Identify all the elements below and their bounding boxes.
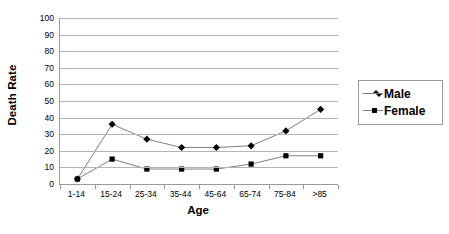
x-axis-title: Age bbox=[59, 204, 337, 216]
x-axis-tick bbox=[60, 185, 61, 189]
gridline bbox=[60, 118, 338, 119]
line-chart: Death Rate 0102030405060708090100 Age Ma… bbox=[0, 0, 449, 234]
data-point-marker bbox=[110, 157, 115, 162]
x-axis-tick bbox=[338, 185, 339, 189]
y-axis-tick-label: 90 bbox=[45, 30, 54, 39]
x-axis-tick bbox=[303, 185, 304, 189]
x-axis-tick-label: 15-24 bbox=[100, 189, 122, 199]
legend-label: Male bbox=[384, 87, 411, 101]
x-axis-tick-label: 75-84 bbox=[274, 189, 296, 199]
data-point-marker bbox=[317, 106, 324, 113]
gridline bbox=[60, 151, 338, 152]
x-axis-tick bbox=[269, 185, 270, 189]
x-axis-tick bbox=[164, 185, 165, 189]
y-axis-tick-label: 20 bbox=[45, 146, 54, 155]
plot-area bbox=[59, 18, 338, 185]
x-axis-tick-label: >85 bbox=[312, 189, 326, 199]
diamond-marker-icon bbox=[362, 87, 384, 101]
gridline bbox=[60, 68, 338, 69]
legend-label: Female bbox=[384, 104, 425, 118]
x-axis-tick bbox=[234, 185, 235, 189]
data-point-marker bbox=[248, 142, 255, 149]
data-point-marker bbox=[283, 153, 288, 158]
gridline bbox=[60, 101, 338, 102]
data-point-marker bbox=[213, 144, 220, 151]
gridline bbox=[60, 35, 338, 36]
data-point-marker bbox=[178, 144, 185, 151]
y-axis-tick-label: 30 bbox=[45, 130, 54, 139]
y-axis-tick-label: 50 bbox=[45, 97, 54, 106]
x-axis-tick bbox=[95, 185, 96, 189]
gridline bbox=[60, 134, 338, 135]
data-point-marker bbox=[75, 176, 80, 181]
gridline bbox=[60, 18, 338, 19]
y-axis-tick-label: 70 bbox=[45, 63, 54, 72]
gridline bbox=[60, 84, 338, 85]
gridline bbox=[60, 51, 338, 52]
data-point-marker bbox=[143, 136, 150, 143]
y-axis-title: Death Rate bbox=[0, 0, 24, 190]
y-axis-tick-labels: 0102030405060708090100 bbox=[24, 0, 57, 234]
x-axis-tick-label: 25-34 bbox=[135, 189, 157, 199]
x-axis-tick-label: 45-64 bbox=[205, 189, 227, 199]
y-axis-tick-label: 80 bbox=[45, 47, 54, 56]
x-axis-tick bbox=[199, 185, 200, 189]
data-point-marker bbox=[249, 161, 254, 166]
y-axis-title-label: Death Rate bbox=[6, 64, 18, 125]
x-axis-tick bbox=[130, 185, 131, 189]
x-axis-tick-label: 65-74 bbox=[239, 189, 261, 199]
data-point-marker bbox=[109, 121, 116, 128]
chart-legend: MaleFemale bbox=[358, 80, 443, 125]
y-axis-tick-label: 10 bbox=[45, 163, 54, 172]
legend-item-female[interactable]: Female bbox=[362, 102, 439, 119]
legend-item-male[interactable]: Male bbox=[362, 85, 439, 102]
x-axis-tick-label: 35-44 bbox=[170, 189, 192, 199]
y-axis-tick-label: 0 bbox=[49, 180, 54, 189]
y-axis-tick-label: 100 bbox=[40, 14, 54, 23]
square-marker-icon bbox=[362, 104, 384, 118]
y-axis-tick-label: 60 bbox=[45, 80, 54, 89]
x-axis-tick-label: 1-14 bbox=[68, 189, 85, 199]
data-point-marker bbox=[318, 153, 323, 158]
gridline bbox=[60, 167, 338, 168]
y-axis-tick-label: 40 bbox=[45, 113, 54, 122]
